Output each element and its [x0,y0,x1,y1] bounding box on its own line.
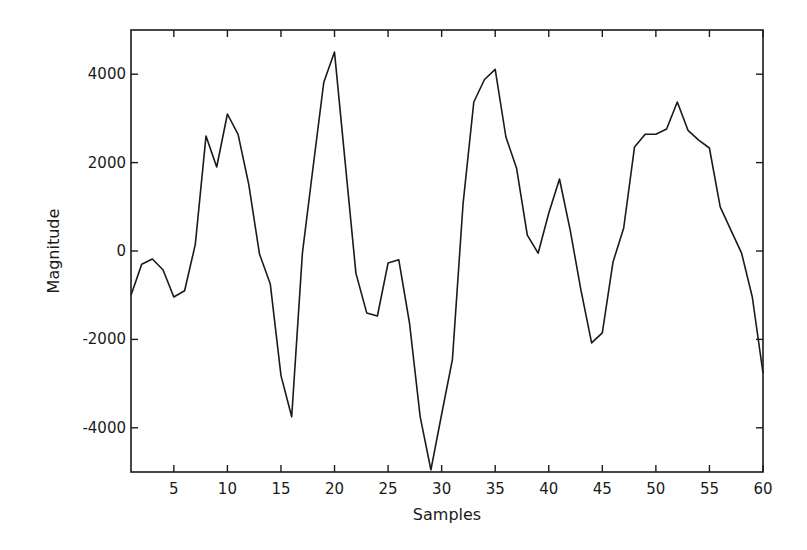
y-tick-label: -2000 [82,330,126,348]
x-tick-label: 25 [379,480,398,498]
y-axis-title: Magnitude [44,209,63,294]
x-tick-label: 35 [486,480,505,498]
x-tick-label: 10 [218,480,237,498]
plot-frame [131,30,763,472]
x-tick-label: 55 [700,480,719,498]
x-tick-label: 15 [271,480,290,498]
x-axis-title: Samples [413,505,481,524]
x-tick-label: 20 [325,480,344,498]
data-line [131,52,763,470]
y-tick-label: 0 [116,242,126,260]
x-tick-label: 30 [432,480,451,498]
y-tick-label: 4000 [88,65,126,83]
x-tick-label: 50 [646,480,665,498]
x-tick-label: 45 [593,480,612,498]
y-tick-label: 2000 [88,154,126,172]
y-tick-label: -4000 [82,419,126,437]
line-chart: 51015202530354045505560-4000-20000200040… [0,0,807,550]
x-tick-label: 40 [539,480,558,498]
x-tick-label: 5 [169,480,179,498]
axis-ticks [131,30,763,472]
x-tick-label: 60 [753,480,772,498]
